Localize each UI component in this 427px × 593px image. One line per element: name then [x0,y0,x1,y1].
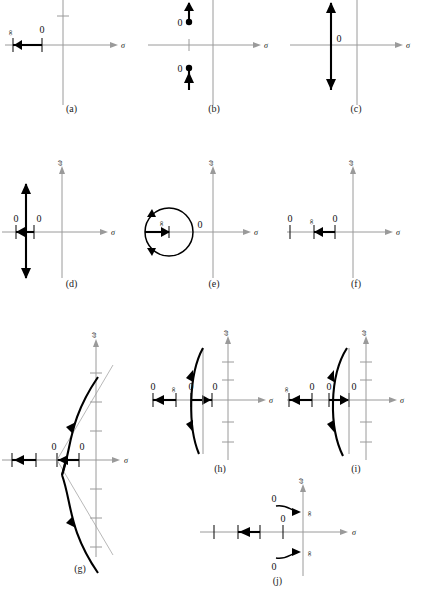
sigma-axis-label: σ [254,228,259,237]
axes-c [290,0,403,105]
sigma-axis-label: σ [264,41,269,50]
locus-arrowhead-center [340,395,349,405]
sigma-axis-arrowhead [112,457,120,463]
locus-arrowhead-upper [184,2,194,11]
panel-i: ∞ 0 0 0 σ ω (i) [285,330,427,490]
locus-arrowhead-down [326,79,336,90]
locus-branch-join [62,461,66,475]
omega-axis-label: ω [55,160,64,166]
panel-caption-h: (h) [150,463,290,474]
label-zero-center: 0 [189,381,194,392]
locus-j-lower-hook [276,548,301,558]
sigma-axis-arrowhead [385,229,393,235]
omega-axis-label: ω [206,160,215,166]
locus-d [16,183,34,279]
sigma-axis-label: σ [396,228,401,237]
label-infinity-lower: ∞ [305,551,314,557]
omega-axis-arrowhead [300,484,306,492]
omega-axis-arrowhead [59,166,65,174]
panel-e: ∞ 0 σ ω (e) [143,160,285,305]
locus-a [13,38,42,52]
locus-i-arc [327,348,349,456]
label-zero-left: 0 [52,441,57,452]
label-zero-center: 0 [327,381,332,392]
label-zero-axis: 0 [281,513,286,524]
sigma-axis-arrowhead [110,42,118,48]
axes-g [2,339,120,557]
label-zero-lower: 0 [178,63,183,74]
panel-f: 0 ∞ 0 σ ω (f) [285,160,427,305]
locus-arrowhead-upper [292,508,301,516]
pole-dot-upper [186,19,192,25]
panel-caption-g: (g) [0,563,160,574]
axes-h [152,336,266,460]
label-zero-upper: 0 [272,493,277,504]
locus-branch-lower [62,475,98,573]
label-zero-right: 0 [333,213,338,224]
omega-axis-label: ω [359,330,368,336]
label-zero-left: 0 [288,213,293,224]
label-infinity: ∞ [157,221,166,227]
label-infinity: ∞ [169,387,178,393]
locus-g-real-segment [12,453,36,467]
locus-b-upper [184,2,194,25]
panel-caption-i: (i) [285,463,427,474]
locus-arrowhead [14,40,22,50]
locus-arrowhead-lower [184,72,194,83]
label-zero-left: 0 [310,381,315,392]
panel-h: 0 ∞ 0 0 σ ω (h) [150,330,290,490]
omega-axis-arrowhead [350,166,356,174]
omega-axis-label: ω [346,160,355,166]
panel-caption-d: (d) [0,278,143,289]
label-infinity: ∞ [6,30,15,36]
panel-caption-b: (b) [143,103,285,114]
panel-caption-c: (c) [285,103,427,114]
omega-axis-arrowhead [93,339,99,347]
asymptote-lower [57,460,113,555]
sigma-axis-label: σ [124,456,129,465]
omega-axis-arrowhead [225,336,231,344]
locus-arrowhead-arc-down [327,420,334,432]
label-zero-left: 0 [14,213,19,224]
axes-b [148,0,261,105]
axes-a [5,0,118,105]
sigma-axis-arrowhead [100,229,108,235]
sigma-axis-label: σ [269,396,274,405]
label-zero-far-left: 0 [151,381,156,392]
sigma-axis-label: σ [352,528,357,537]
locus-b-lower [184,65,194,90]
locus-c [326,2,336,90]
label-zero-right: 0 [213,381,218,392]
locus-arrowhead-up [326,2,336,13]
panel-caption-a: (a) [0,103,143,114]
locus-g-branches [62,377,98,573]
sigma-axis-label: σ [111,228,116,237]
panel-c: 0 σ (c) [285,0,427,130]
panel-a: ∞ 0 σ (a) [0,0,143,130]
sigma-axis-label: σ [406,41,411,50]
sigma-axis-arrowhead [243,229,251,235]
sigma-axis-label: σ [400,396,405,405]
locus-arrowhead-lens-down [186,420,193,432]
label-zero-right: 0 [37,213,42,224]
sigma-axis-arrowhead [253,42,261,48]
locus-h-left [153,393,176,407]
label-infinity-upper: ∞ [305,511,314,517]
label-infinity: ∞ [307,219,316,225]
sigma-axis-arrowhead [258,397,266,403]
locus-arrowhead-left [16,227,25,237]
label-zero: 0 [198,219,203,230]
omega-axis-label: ω [296,478,305,484]
locus-arrowhead-left [14,455,24,465]
omega-axis-label: ω [221,330,230,336]
sigma-axis-label: σ [121,41,126,50]
panel-caption-f: (f) [285,278,427,289]
label-zero-right: 0 [352,381,357,392]
panel-j: 0 ∞ 0 0 ∞ σ ω (j) [140,480,375,593]
locus-arrowhead-left [239,527,250,537]
omega-axis-arrowhead [210,166,216,174]
locus-arrowhead-left [314,227,323,237]
locus-arrowhead-lower [292,548,301,556]
axes-f [287,166,393,278]
panel-caption-e: (e) [143,278,285,289]
